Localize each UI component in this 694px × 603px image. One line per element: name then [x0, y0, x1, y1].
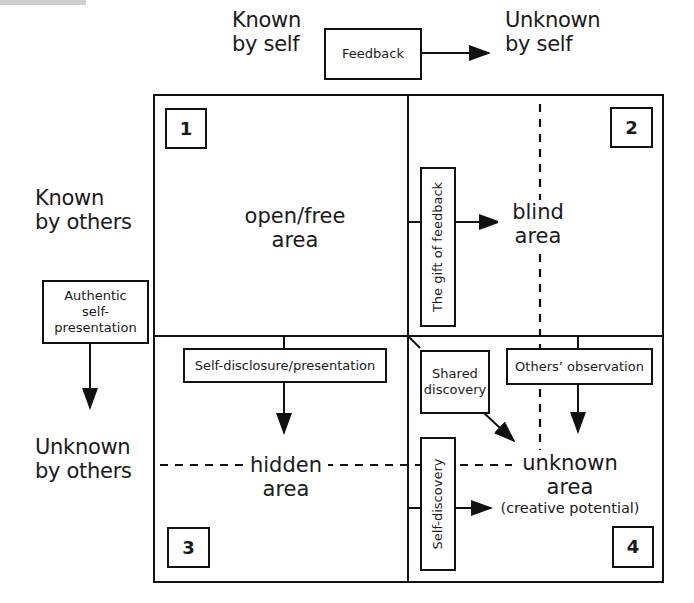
known-by-self-label: Knownby self — [232, 8, 301, 56]
shared-discovery-arrow — [484, 413, 514, 441]
hidden-area-label: hiddenarea — [236, 453, 336, 501]
gift-of-feedback-box: The gift of feedback — [420, 167, 456, 327]
unknown-area-label: unknown area (creative potential) — [500, 451, 640, 517]
open-free-area-label: open/freearea — [220, 204, 370, 252]
blind-area-label: blindarea — [498, 200, 578, 248]
unknown-by-self-label: Unknownby self — [505, 8, 600, 56]
authentic-self-presentation-box: Authentic self- presentation — [42, 280, 149, 344]
creative-potential-note: (creative potential) — [500, 499, 640, 517]
self-discovery-box: Self-discovery — [420, 437, 456, 571]
self-disclosure-box: Self-disclosure/presentation — [183, 348, 387, 383]
quadrant-1-number: 1 — [165, 108, 207, 149]
feedback-box: Feedback — [324, 28, 422, 80]
quadrant-4-number: 4 — [612, 526, 654, 568]
unknown-by-others-label: Unknownby others — [35, 435, 132, 483]
quadrant-3-number: 3 — [167, 527, 210, 568]
others-observation-box: Others’ observation — [506, 348, 653, 385]
quadrant-2-number: 2 — [610, 107, 653, 148]
known-by-others-label: Knownby others — [35, 186, 132, 234]
shared-discovery-box: Shareddiscovery — [420, 350, 490, 414]
